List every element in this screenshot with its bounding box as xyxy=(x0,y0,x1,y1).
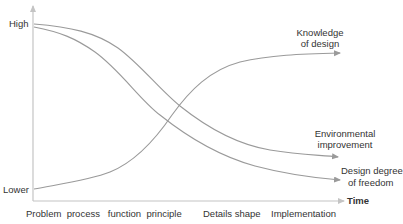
stage-labels-left: Problem process function principle xyxy=(26,208,182,219)
environmental-label-line2: improvement xyxy=(305,139,385,150)
stage-label-details: Details shape xyxy=(203,208,261,219)
x-axis-title: Time xyxy=(347,195,369,206)
knowledge-label-line2: of design xyxy=(290,38,350,49)
y-label-high: High xyxy=(9,18,29,29)
knowledge-label: Knowledge of design xyxy=(290,27,350,49)
knowledge-of-design-curve xyxy=(34,53,340,189)
freedom-label-line1: Design degree xyxy=(341,165,403,176)
environmental-label: Environmental improvement xyxy=(305,128,385,150)
freedom-label-line2: of freedom xyxy=(348,177,393,188)
environmental-label-line1: Environmental xyxy=(305,128,385,139)
y-label-lower: Lower xyxy=(3,184,29,195)
stage-label-implementation: Implementation xyxy=(271,208,336,219)
design-freedom-curve xyxy=(34,27,340,180)
knowledge-label-line1: Knowledge xyxy=(290,27,350,38)
